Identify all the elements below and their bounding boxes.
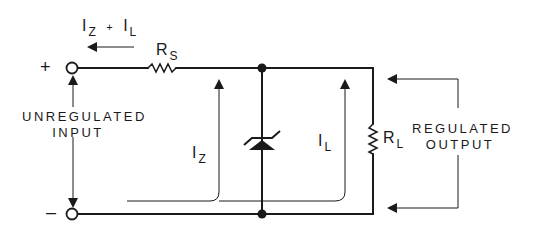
rs-main: R xyxy=(156,41,168,58)
output-top-arrow xyxy=(392,79,458,108)
output-label-line1: REGULATED xyxy=(412,122,508,135)
rl-main: R xyxy=(383,129,395,146)
output-label-line2: OUTPUT xyxy=(412,138,508,151)
iz-label: IZ xyxy=(192,145,206,161)
series-resistor-rs xyxy=(148,64,176,72)
junction-dot-bottom xyxy=(258,210,267,219)
il-label-main: I xyxy=(318,132,322,149)
input-terminal-positive xyxy=(67,63,78,74)
rs-label: RS xyxy=(156,42,178,58)
iz-label-sub: Z xyxy=(198,152,205,166)
output-label: REGULATED OUTPUT xyxy=(412,122,508,151)
input-plus-sign: + xyxy=(40,58,51,76)
il-main: I xyxy=(123,17,127,34)
rl-label: RL xyxy=(383,130,403,146)
rl-sub: L xyxy=(397,137,404,151)
il-label: IL xyxy=(318,133,331,149)
input-terminal-negative xyxy=(67,209,78,220)
output-bottom-arrow xyxy=(392,155,458,208)
zener-current-arrow xyxy=(127,84,219,201)
il-label-sub: L xyxy=(324,140,331,154)
il-sub: L xyxy=(130,25,137,39)
load-resistor-rl xyxy=(369,124,377,154)
input-label-line1: UNREGULATED xyxy=(22,110,134,123)
iz-main: I xyxy=(82,17,86,34)
total-current-label: IZ + IL xyxy=(82,18,136,34)
input-label: UNREGULATED INPUT xyxy=(22,110,134,139)
iz-label-main: I xyxy=(192,144,196,161)
input-label-line2: INPUT xyxy=(22,126,134,139)
rs-sub: S xyxy=(170,49,178,63)
iz-sub: Z xyxy=(88,25,95,39)
plus-sign: + xyxy=(106,21,112,33)
junction-dot-top xyxy=(258,64,267,73)
input-minus-sign: – xyxy=(46,203,56,221)
